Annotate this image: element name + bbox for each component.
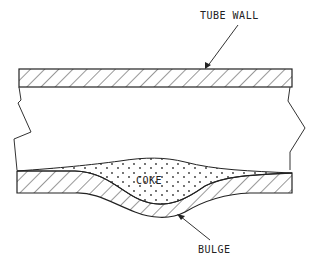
- diagram-canvas: TUBE WALL COKE BULGE: [0, 0, 316, 267]
- tube-diagram: TUBE WALL COKE BULGE: [0, 0, 316, 267]
- label-coke: COKE: [136, 175, 162, 186]
- left-break-line: [14, 87, 31, 170]
- right-break-line: [288, 87, 305, 170]
- top-tube-wall: [19, 69, 292, 87]
- tube-wall-leader: [207, 25, 238, 67]
- label-tube-wall: TUBE WALL: [200, 10, 259, 21]
- label-bulge: BULGE: [198, 244, 231, 255]
- bulge-leader: [180, 216, 210, 240]
